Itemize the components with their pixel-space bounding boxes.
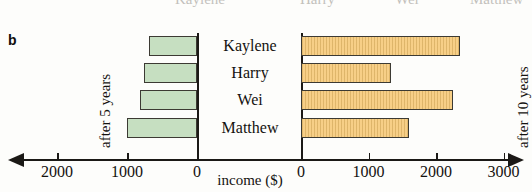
bar-right-matthew: [301, 118, 409, 138]
bar-right-wei: [301, 90, 453, 110]
x-tick-left-0-label: 0: [193, 163, 201, 181]
category-label-wei: Wei: [199, 90, 301, 110]
x-tick-right-1000-mark: [369, 153, 371, 161]
bar-left-matthew: [127, 118, 197, 138]
x-tick-right-0-label: 0: [297, 163, 305, 181]
x-tick-right-2000-mark: [436, 153, 438, 161]
bar-right-harry: [301, 63, 391, 83]
x-tick-right-3000-label: 3000: [488, 163, 520, 181]
category-label-harry: Harry: [199, 63, 301, 83]
x-tick-left-2000-mark: [57, 153, 59, 161]
bar-left-harry: [144, 63, 197, 83]
x-tick-right-2000-label: 2000: [420, 163, 452, 181]
x-tick-left-1000-mark: [127, 153, 129, 161]
bar-right-kaylene: [301, 36, 460, 56]
x-axis-left-arrow: [8, 153, 24, 167]
x-tick-left-0-mark: [197, 153, 199, 161]
chart-plot-area: KayleneHarryWeiMatthew: [0, 0, 532, 192]
category-label-kaylene: Kaylene: [199, 36, 301, 56]
bar-left-kaylene: [149, 36, 197, 56]
category-label-matthew: Matthew: [199, 118, 301, 138]
x-tick-right-3000-mark: [504, 153, 506, 161]
x-tick-left-2000-label: 2000: [41, 163, 73, 181]
x-axis-title: income ($): [217, 172, 282, 189]
x-axis-line: [22, 159, 512, 161]
x-tick-right-0-mark: [301, 153, 303, 161]
x-tick-left-1000-label: 1000: [111, 163, 143, 181]
bar-left-wei: [140, 90, 197, 110]
x-tick-right-1000-label: 1000: [353, 163, 385, 181]
